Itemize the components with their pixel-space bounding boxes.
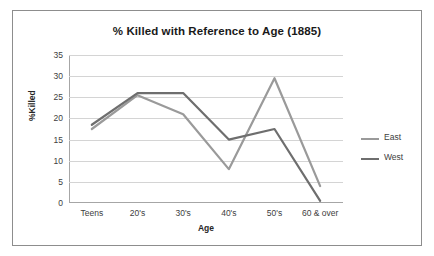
plot-area: 05101520253035 Teens20's30's40's50's60 &… <box>69 55 343 203</box>
series-line-west <box>92 93 320 201</box>
legend-item: West <box>361 149 417 169</box>
y-tick-label: 35 <box>39 50 63 60</box>
x-tick-label: Teens <box>80 208 103 218</box>
x-axis-title: Age <box>69 223 343 233</box>
y-tick-label: 30 <box>39 71 63 81</box>
legend-item: East <box>361 129 417 149</box>
y-tick-label: 15 <box>39 135 63 145</box>
chart-title: % Killed with Reference to Age (1885) <box>13 25 421 37</box>
y-tick-label: 25 <box>39 92 63 102</box>
y-tick-label: 20 <box>39 113 63 123</box>
x-tick-label: 30's <box>175 208 190 218</box>
y-tick-label: 0 <box>39 198 63 208</box>
series-line-east <box>92 78 320 186</box>
x-tick-label: 60 & over <box>302 208 338 218</box>
y-tick-label: 5 <box>39 177 63 187</box>
y-tick-label: 10 <box>39 156 63 166</box>
legend-swatch-west <box>361 158 379 160</box>
y-axis-title: %Killed <box>27 90 37 121</box>
legend-label-east: East <box>384 132 401 142</box>
x-tick-label: 20's <box>130 208 145 218</box>
legend-swatch-east <box>361 138 379 140</box>
legend-label-west: West <box>384 152 403 162</box>
chart-container: % Killed with Reference to Age (1885) %K… <box>12 10 422 246</box>
chart-legend: East West <box>361 129 417 169</box>
x-tick-label: 40's <box>221 208 236 218</box>
x-tick-label: 50's <box>267 208 282 218</box>
series-lines <box>69 55 343 203</box>
